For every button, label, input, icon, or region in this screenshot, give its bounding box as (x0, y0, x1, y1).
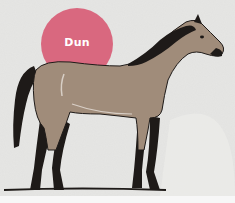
horse-figure (0, 0, 235, 203)
ground-line (4, 189, 166, 191)
eye (200, 36, 204, 39)
horse-illustration: Dun (0, 0, 235, 203)
